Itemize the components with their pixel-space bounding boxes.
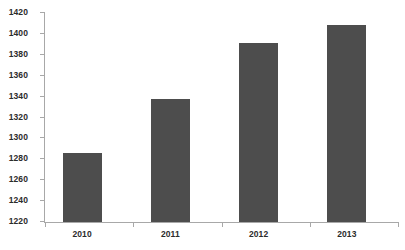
x-axis-label: 2012 [229, 229, 289, 239]
x-axis-tick-mark [222, 222, 223, 227]
bar [63, 153, 102, 222]
y-axis-tick-label: 1240 [9, 195, 28, 205]
y-axis-tick-label: 1340 [9, 91, 28, 101]
plot-area [45, 13, 398, 222]
bar [151, 99, 190, 222]
x-axis-tick-mark [133, 222, 134, 227]
y-axis-tick-label: 1380 [9, 49, 28, 59]
x-axis-label: 2011 [140, 229, 200, 239]
bar [327, 25, 366, 223]
y-axis-tick-label: 1420 [9, 7, 28, 17]
y-axis-tick-label: 1400 [9, 28, 28, 38]
y-axis-tick-label: 1360 [9, 70, 28, 80]
x-axis-tick-mark [398, 222, 399, 227]
x-axis-tick-mark [310, 222, 311, 227]
x-axis-tick-mark [45, 222, 46, 227]
y-axis-tick-label: 1280 [9, 153, 28, 163]
bar [239, 43, 278, 222]
bar-chart: 1220124012601280130013201340136013801400… [0, 0, 405, 250]
y-axis-tick-label: 1260 [9, 174, 28, 184]
y-axis-tick-label: 1300 [9, 132, 28, 142]
x-axis-label: 2013 [317, 229, 377, 239]
y-axis-tick-label: 1220 [9, 216, 28, 226]
y-axis-tick-label: 1320 [9, 112, 28, 122]
x-axis-label: 2010 [52, 229, 112, 239]
